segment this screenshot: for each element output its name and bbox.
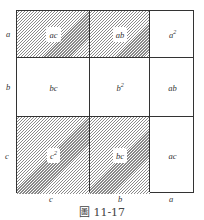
cell-label: c2 <box>47 148 60 162</box>
cell-ab-top: ab <box>90 11 150 58</box>
cell-label: b2 <box>116 82 123 92</box>
area-model-grid: ac ab a2 bc b2 ab c2 bc ac <box>16 10 194 193</box>
cell-label: bc <box>113 148 127 162</box>
cell-label: ab <box>168 82 177 92</box>
cell-a-squared: a2 <box>150 11 195 58</box>
cell-bc-middle: bc <box>17 58 90 117</box>
cell-label: ac <box>168 150 176 160</box>
side-label-c: c <box>5 151 9 161</box>
grid-divider-horizontal-1 <box>17 57 193 58</box>
grid-divider-vertical-2 <box>149 11 150 192</box>
cell-ac-top: ac <box>17 11 90 58</box>
cell-bc-bottom: bc <box>90 117 150 194</box>
cell-label: ac <box>46 27 60 41</box>
grid-divider-horizontal-2 <box>17 116 193 117</box>
cell-b-squared: b2 <box>90 58 150 117</box>
side-label-b: b <box>6 82 10 92</box>
cell-ab-middle: ab <box>150 58 195 117</box>
cell-label: bc <box>49 82 57 92</box>
grid-divider-vertical-1 <box>89 11 90 192</box>
cell-label: a2 <box>169 29 176 39</box>
figure-caption: 圖 11-17 <box>0 203 204 219</box>
cell-label: ab <box>113 27 128 41</box>
cell-ac-bottom: ac <box>150 117 195 194</box>
side-label-a: a <box>6 29 10 39</box>
cell-c-squared: c2 <box>17 117 90 194</box>
